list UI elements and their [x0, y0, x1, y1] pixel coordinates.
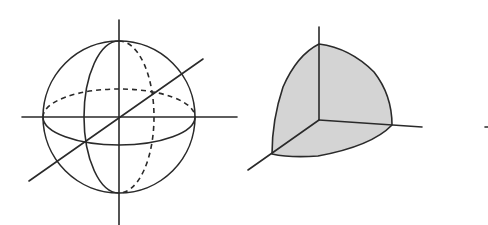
- sphere-panel: [22, 20, 237, 225]
- octant-panel: [248, 27, 488, 170]
- diagram-canvas: [0, 0, 488, 225]
